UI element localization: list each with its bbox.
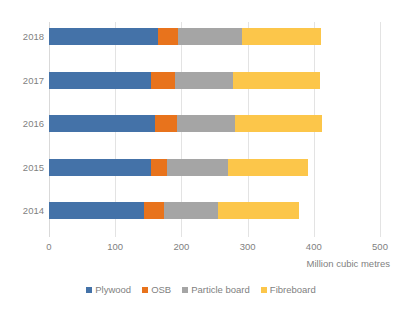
- category-label-2018: 2018: [4, 28, 44, 45]
- bar-segment-particle-board: [164, 202, 218, 219]
- legend-label: OSB: [151, 284, 171, 295]
- bar-segment-plywood: [49, 159, 151, 176]
- legend-item-particle-board[interactable]: Particle board: [182, 284, 250, 295]
- bar-segment-particle-board: [177, 115, 235, 132]
- legend-item-fibreboard[interactable]: Fibreboard: [261, 284, 316, 295]
- bar-segment-osb: [144, 202, 164, 219]
- legend-swatch-icon: [261, 287, 267, 293]
- legend-label: Fibreboard: [270, 284, 316, 295]
- bar-segment-fibreboard: [218, 202, 298, 219]
- legend-item-plywood[interactable]: Plywood: [86, 284, 131, 295]
- category-label-2015: 2015: [4, 159, 44, 176]
- bar-row: [49, 202, 299, 219]
- bar-row: [49, 159, 308, 176]
- category-label-2017: 2017: [4, 72, 44, 89]
- bar-segment-particle-board: [167, 159, 228, 176]
- bar-segment-fibreboard: [235, 115, 322, 132]
- x-tick-label-0: 0: [46, 241, 51, 252]
- bar-segment-fibreboard: [228, 159, 308, 176]
- category-label-2016: 2016: [4, 115, 44, 132]
- bar-series-container: [49, 22, 380, 237]
- bar-segment-fibreboard: [233, 72, 320, 89]
- bar-segment-plywood: [49, 115, 155, 132]
- bar-segment-particle-board: [175, 72, 233, 89]
- bar-segment-osb: [151, 72, 175, 89]
- stacked-bar-chart: 20182017201620152014 0100200300400500 Mi…: [0, 0, 402, 309]
- gridline: [380, 22, 381, 237]
- bar-segment-osb: [151, 159, 167, 176]
- legend-swatch-icon: [182, 287, 188, 293]
- legend-swatch-icon: [142, 287, 148, 293]
- legend-label: Plywood: [95, 284, 131, 295]
- bar-segment-plywood: [49, 202, 144, 219]
- x-tick-label-400: 400: [306, 241, 322, 252]
- category-label-2014: 2014: [4, 202, 44, 219]
- bar-row: [49, 28, 321, 45]
- bar-row: [49, 72, 320, 89]
- x-tick-label-300: 300: [240, 241, 256, 252]
- plot-area: [49, 22, 380, 237]
- bar-segment-fibreboard: [242, 28, 321, 45]
- bar-segment-plywood: [49, 28, 158, 45]
- bar-segment-osb: [155, 115, 177, 132]
- legend-swatch-icon: [86, 287, 92, 293]
- x-axis-title: Million cubic metres: [0, 258, 390, 269]
- legend-label: Particle board: [191, 284, 250, 295]
- bar-segment-particle-board: [178, 28, 242, 45]
- bar-segment-osb: [158, 28, 178, 45]
- value-axis-ticks: 0100200300400500: [0, 241, 402, 255]
- x-tick-label-200: 200: [173, 241, 189, 252]
- bar-segment-plywood: [49, 72, 151, 89]
- bar-row: [49, 115, 322, 132]
- x-tick-label-100: 100: [107, 241, 123, 252]
- legend-item-osb[interactable]: OSB: [142, 284, 171, 295]
- x-tick-label-500: 500: [372, 241, 388, 252]
- chart-legend: PlywoodOSBParticle boardFibreboard: [0, 284, 402, 295]
